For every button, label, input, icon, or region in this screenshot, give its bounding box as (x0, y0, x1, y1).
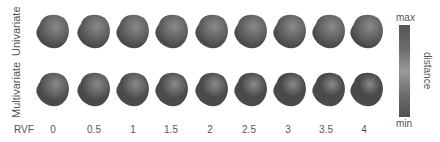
multivariate-shape-4 (193, 68, 231, 108)
row-label-multivariate: Multivariate (10, 62, 22, 118)
multivariate-shape-8 (348, 68, 386, 108)
multivariate-shape-1 (75, 68, 113, 108)
rvf-tick-1: 0.5 (79, 124, 109, 135)
multivariate-shape-6 (271, 68, 309, 108)
multivariate-shape-7 (310, 68, 348, 108)
rvf-axis-title: RVF (14, 124, 34, 135)
univariate-shape-7 (310, 10, 348, 50)
multivariate-shape-0 (34, 68, 72, 108)
colorbar-min-label: min (396, 118, 412, 129)
colorbar-title: distance (422, 52, 433, 89)
univariate-shape-5 (232, 10, 270, 50)
multivariate-shape-5 (232, 68, 270, 108)
rvf-tick-2: 1 (118, 124, 148, 135)
univariate-shape-8 (348, 10, 386, 50)
rvf-tick-7: 3.5 (311, 124, 341, 135)
univariate-shape-4 (193, 10, 231, 50)
univariate-shape-1 (75, 10, 113, 50)
multivariate-shape-3 (153, 68, 191, 108)
row-label-univariate: Univariate (10, 6, 22, 56)
colorbar-max-label: max (396, 12, 415, 23)
multivariate-shape-2 (114, 68, 152, 108)
univariate-shape-0 (34, 10, 72, 50)
colorbar (399, 25, 410, 117)
rvf-tick-0: 0 (38, 124, 68, 135)
rvf-tick-5: 2.5 (234, 124, 264, 135)
univariate-shape-3 (153, 10, 191, 50)
rvf-tick-4: 2 (195, 124, 225, 135)
univariate-shape-2 (114, 10, 152, 50)
rvf-tick-8: 4 (349, 124, 379, 135)
rvf-tick-3: 1.5 (156, 124, 186, 135)
rvf-tick-6: 3 (273, 124, 303, 135)
univariate-shape-6 (271, 10, 309, 50)
